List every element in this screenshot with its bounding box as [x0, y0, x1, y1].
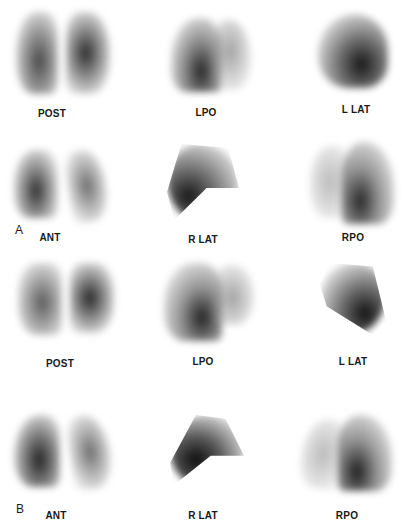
scan-rpo-b [300, 413, 396, 495]
view-label: R LAT [188, 510, 218, 521]
panel-letter-a: A [15, 223, 23, 237]
view-label: ANT [45, 510, 66, 521]
scan-lpo-a [163, 12, 253, 94]
scan-ant-b [12, 413, 114, 491]
scan-lpo-b [160, 261, 256, 345]
scan-post-b [14, 261, 119, 339]
view-label: LPO [192, 356, 213, 367]
scan-llat-a [314, 12, 394, 92]
panel-a: POST LPO L LAT A ANT R LAT RPO [0, 0, 404, 263]
panel-letter-b: B [16, 502, 24, 516]
scan-ant-a [10, 148, 110, 223]
view-label: L LAT [342, 104, 370, 115]
scan-rlat-b [168, 413, 248, 493]
view-label: POST [46, 358, 74, 369]
scan-rpo-a [308, 140, 398, 228]
scan-rlat-a [165, 142, 245, 228]
view-label: L LAT [339, 356, 367, 367]
panel-b: POST LPO L LAT B ANT R LAT RPO [0, 263, 404, 526]
view-label: POST [38, 108, 66, 119]
view-label: ANT [39, 232, 60, 243]
view-label: RPO [336, 510, 358, 521]
view-label: RPO [342, 232, 364, 243]
scan-post-a [10, 8, 115, 98]
scan-llat-b [318, 261, 390, 339]
view-label: LPO [195, 107, 216, 118]
view-label: R LAT [188, 234, 218, 245]
